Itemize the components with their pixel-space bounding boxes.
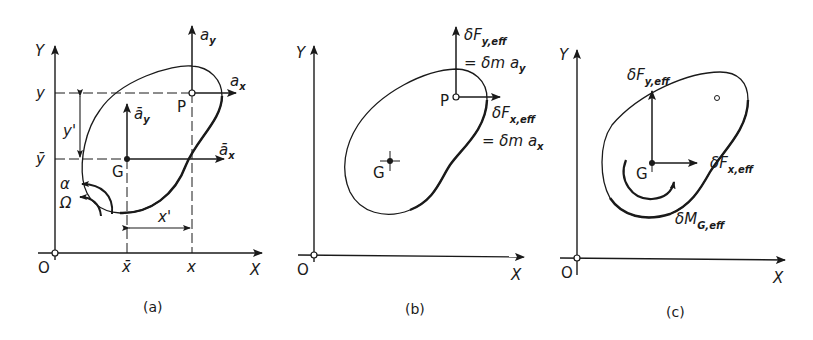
- ybar-coord-label: ȳ: [35, 150, 46, 168]
- yprime-label: y': [62, 122, 76, 140]
- origin-marker: [311, 252, 317, 258]
- fx-eff-label: δFx,eff: [492, 104, 537, 125]
- moment-label: δMG,eff: [675, 210, 726, 231]
- fx-eff-equation: = δm ax: [482, 132, 544, 152]
- x-axis-label: X: [249, 261, 261, 279]
- panel-b-caption: (b): [405, 301, 425, 317]
- xbar-coord-label: x̄: [121, 258, 131, 276]
- point-p-label: P: [440, 92, 449, 110]
- origin-marker: [52, 250, 58, 256]
- origin-marker: [574, 255, 580, 261]
- x-axis-label: X: [510, 266, 522, 284]
- fy-eff-equation: = δm ay: [464, 54, 526, 74]
- fy-eff-label: δFy,eff: [627, 66, 671, 87]
- origin-label: O: [297, 261, 309, 279]
- panel-c: Y X O G δFy,eff δFx,eff δMG,eff (c): [559, 46, 785, 320]
- panel-c-caption: (c): [666, 304, 685, 320]
- rigid-body-outline-thick: [410, 100, 487, 210]
- point-g-marker: [387, 158, 393, 164]
- y-coord-label: y: [35, 84, 46, 102]
- fx-eff-label: δFx,eff: [710, 154, 755, 175]
- x-axis-label: X: [772, 269, 784, 287]
- panel-b: Y X O P δFy,eff = δm ay δFx,eff = δm ax …: [296, 26, 544, 317]
- alpha-label: α: [60, 175, 70, 193]
- omega-arc-arrow: [80, 197, 101, 216]
- y-axis-label: Y: [559, 46, 570, 64]
- point-g-label: G: [373, 164, 385, 182]
- axbar-label: āx: [219, 141, 235, 161]
- y-axis-label: Y: [296, 44, 307, 62]
- x-axis: [298, 255, 524, 257]
- y-axis-label: Y: [35, 42, 46, 60]
- point-p-marker: [715, 96, 720, 101]
- omega-label: Ω: [59, 194, 72, 212]
- kinematics-figure: Y X O y ȳ x̄ x y' x' P ay ax G āy: [0, 0, 813, 340]
- alpha-arc-arrow: [82, 184, 112, 214]
- panel-a-caption: (a): [143, 299, 163, 315]
- x-axis: [560, 258, 785, 260]
- x-coord-label: x: [186, 258, 196, 276]
- panel-a: Y X O y ȳ x̄ x y' x' P ay ax G āy: [35, 26, 262, 315]
- xprime-label: x': [157, 208, 171, 226]
- rigid-body-outline: [602, 72, 748, 217]
- origin-label: O: [561, 264, 573, 282]
- point-g-label: G: [112, 163, 124, 181]
- point-g-label: G: [636, 165, 648, 183]
- point-p-marker: [453, 94, 459, 100]
- moment-arc-arrow: [624, 160, 674, 199]
- ax-label: ax: [230, 72, 246, 92]
- rigid-body-outline: [345, 69, 487, 214]
- fy-eff-label: δFy,eff: [464, 26, 508, 47]
- aybar-label: āy: [134, 105, 150, 125]
- origin-label: O: [38, 259, 50, 277]
- point-p-marker: [189, 90, 195, 96]
- point-p-label: P: [177, 98, 186, 116]
- ay-label: ay: [200, 26, 216, 46]
- point-g-marker: [124, 156, 130, 162]
